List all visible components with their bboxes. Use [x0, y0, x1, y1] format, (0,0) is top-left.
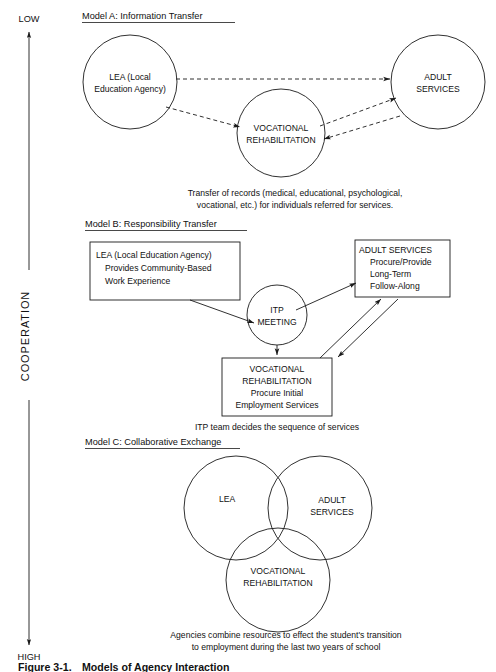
model-b-title: Model B: Responsibility Transfer [85, 219, 217, 229]
model-c-adult-label-line1: ADULT [318, 495, 346, 505]
model-c-lea-circle [184, 456, 288, 560]
model-a-adult-services-label-line2: SERVICES [416, 84, 460, 94]
figure-models-of-agency-interaction: LOW COOPERATION HIGH Model A: Informatio… [0, 0, 496, 672]
model-a-vr-label-line1: VOCATIONAL [254, 123, 309, 133]
model-b-adult-line1: ADULT SERVICES [359, 245, 432, 255]
arrow-b-adult-services-to-vr [338, 299, 398, 357]
model-c-title: Model C: Collaborative Exchange [85, 437, 221, 447]
model-b-lea-line3: Work Experience [105, 276, 170, 286]
figure-caption-number: Figure 3-1. [18, 661, 72, 672]
model-a-vr-circle [237, 89, 325, 177]
model-a-lea-circle [83, 35, 177, 129]
model-c-group: Model C: Collaborative Exchange LEA ADUL… [85, 437, 402, 652]
cooperation-axis: LOW COOPERATION HIGH [18, 14, 41, 662]
model-c-lea-label: LEA [219, 494, 236, 504]
model-c-vr-label-line2: REHABILITATION [243, 578, 312, 588]
model-c-caption-line1: Agencies combine resources to effect the… [170, 630, 401, 640]
model-b-vr-line4: Employment Services [235, 400, 318, 410]
model-a-lea-label-line2: Education Agency) [94, 84, 166, 94]
model-a-group: Model A: Information Transfer LEA (Local… [82, 11, 485, 210]
model-c-caption-line2: to employment during the last two years … [192, 642, 381, 652]
model-b-group: Model B: Responsibility Transfer LEA (Lo… [85, 219, 450, 432]
model-c-adult-label-line2: SERVICES [310, 507, 354, 517]
model-a-vr-label-line2: REHABILITATION [246, 135, 315, 145]
model-c-vr-label-line1: VOCATIONAL [251, 566, 306, 576]
model-b-adult-line3: Long-Term [370, 269, 411, 279]
model-a-lea-label-line1: LEA (Local [109, 72, 151, 82]
axis-label-low: LOW [19, 14, 40, 24]
figure-caption-group: Figure 3-1. Models of Agency Interaction [18, 661, 229, 672]
model-a-caption-line1: Transfer of records (medical, educationa… [188, 188, 403, 198]
arrow-b-vr-to-adult-services [320, 299, 381, 358]
model-a-adult-services-label-line1: ADULT [424, 72, 452, 82]
model-b-vr-line1: VOCATIONAL [250, 364, 305, 374]
model-b-caption-line1: ITP team decides the sequence of service… [195, 422, 359, 432]
arrow-b-lea-to-itp [190, 300, 254, 323]
arrow-adult-services-to-vr [324, 116, 400, 139]
model-b-lea-line1: LEA (Local Education Agency) [96, 250, 212, 260]
axis-title-cooperation: COOPERATION [19, 291, 31, 381]
model-b-vr-line2: REHABILITATION [242, 376, 311, 386]
model-b-itp-line2: MEETING [257, 317, 296, 327]
arrow-b-itp-to-adult-services [296, 283, 356, 310]
model-b-vr-line3: Procure Initial [251, 388, 304, 398]
arrow-lea-to-vocational-rehabilitation [166, 107, 240, 127]
model-b-itp-line1: ITP [270, 305, 284, 315]
model-b-adult-line4: Follow-Along [370, 281, 420, 291]
arrow-vr-to-adult-services [320, 98, 396, 126]
model-b-adult-line2: Procure/Provide [370, 257, 432, 267]
model-b-itp-circle [247, 285, 307, 345]
model-b-lea-line2: Provides Community-Based [105, 263, 212, 273]
figure-caption-title: Models of Agency Interaction [82, 661, 229, 672]
model-a-caption-line2: vocational, etc.) for individuals referr… [197, 200, 393, 210]
model-a-title: Model A: Information Transfer [82, 11, 203, 21]
model-a-adult-services-circle [391, 35, 485, 129]
